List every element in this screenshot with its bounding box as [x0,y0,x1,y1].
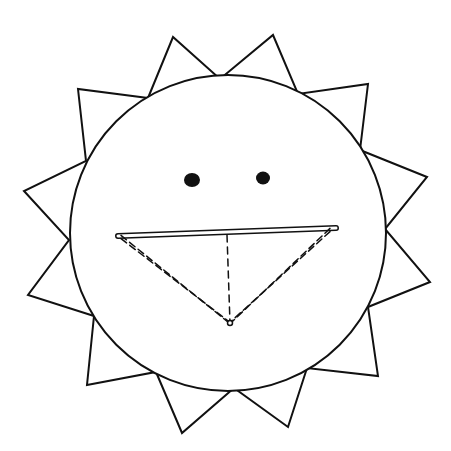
left-eye [184,173,200,187]
sun-drawing [0,0,451,451]
right-eye [256,172,270,185]
mouth-vertex [228,321,233,326]
